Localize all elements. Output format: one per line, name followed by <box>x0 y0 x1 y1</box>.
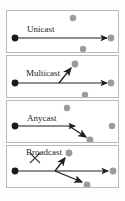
panel-anycast: Anycast <box>6 100 119 143</box>
node-target-right <box>110 168 117 175</box>
panel-list: Unicast Multicast <box>0 10 125 190</box>
node-target-right <box>108 35 115 42</box>
node-idle-bottom <box>80 46 86 52</box>
panel-broadcast: Broadcast <box>6 145 119 188</box>
panel-broadcast-diagram <box>7 146 120 187</box>
node-target-bottom <box>87 137 94 142</box>
arrow-broadcast-down <box>55 171 82 182</box>
node-source <box>12 35 19 42</box>
node-target-bottom <box>84 182 91 187</box>
arrow-broadcast-up <box>55 158 65 171</box>
arrow-multicast-branch <box>59 68 71 83</box>
node-idle-right <box>109 123 115 129</box>
node-target-top <box>66 150 73 157</box>
node-idle-bottom <box>82 92 88 97</box>
panel-multicast-diagram <box>7 56 120 97</box>
panel-label-multicast: Multicast <box>26 69 60 78</box>
figure-caption-strip: 图 1-8 单播、多播、任播和广播 <box>0 0 125 9</box>
figure-container: 图 1-8 单播、多播、任播和广播 Unicast <box>0 0 125 201</box>
panel-anycast-diagram <box>7 101 120 142</box>
panel-label-anycast: Anycast <box>27 114 57 123</box>
node-idle-top <box>70 15 76 21</box>
panel-label-broadcast: Broadcast <box>26 148 62 157</box>
panel-multicast: Multicast <box>6 55 119 98</box>
panel-unicast-diagram <box>7 11 120 52</box>
arrow-anycast-branch <box>69 126 86 137</box>
node-target-right <box>108 80 115 87</box>
node-target-top <box>72 61 79 68</box>
figure-caption-text: 图 1-8 单播、多播、任播和广播 <box>2 0 125 2</box>
node-source <box>12 80 19 87</box>
node-source <box>12 123 19 130</box>
panel-unicast: Unicast <box>6 10 119 53</box>
node-idle-top <box>64 105 70 111</box>
node-source <box>12 168 19 175</box>
panel-label-unicast: Unicast <box>27 25 55 34</box>
